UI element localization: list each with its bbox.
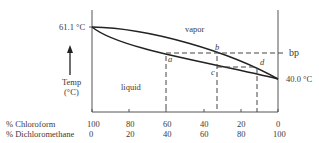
dichloromethane-tick: 60 <box>200 130 209 139</box>
chloroform-tick: 60 <box>163 120 172 129</box>
dichloromethane-tick: 100 <box>273 130 286 139</box>
dichloromethane-tick: 20 <box>126 130 135 139</box>
bp-label: bp <box>289 48 299 58</box>
chloroform-axis-label: % Chloroform <box>6 120 55 129</box>
dichloromethane-tick: 80 <box>237 130 246 139</box>
chloroform-tick: 0 <box>276 120 280 129</box>
point-c-label: c <box>211 68 215 77</box>
dichloromethane-tick: 0 <box>89 130 93 139</box>
point-a-label: a <box>168 55 172 64</box>
liquid-region-label: liquid <box>121 83 141 92</box>
y-axis-label: Temp <box>62 78 81 87</box>
chloroform-tick: 20 <box>237 120 246 129</box>
dichloromethane-tick: 40 <box>163 130 172 139</box>
y-axis-unit: (°C) <box>64 88 79 97</box>
left-temp-label: 61.1 °C <box>59 23 85 32</box>
right-temp-label: 40.0 °C <box>286 75 312 84</box>
arrow-head-icon <box>67 45 73 53</box>
chloroform-tick: 40 <box>200 120 209 129</box>
vapor-region-label: vapor <box>185 25 204 34</box>
point-d-label: d <box>260 58 264 67</box>
chloroform-tick: 100 <box>87 120 100 129</box>
chloroform-tick: 80 <box>126 120 135 129</box>
point-b-label: b <box>215 43 219 52</box>
dichloromethane-axis-label: % Dichloromethane <box>6 130 74 139</box>
